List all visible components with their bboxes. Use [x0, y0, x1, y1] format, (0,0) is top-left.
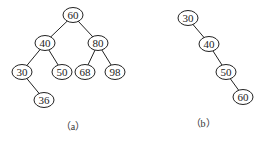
tree-node: 60 — [233, 90, 253, 105]
node-label: 50 — [221, 66, 233, 78]
node-label: 40 — [40, 37, 52, 49]
tree-b: 30405060（b） — [178, 11, 253, 130]
tree-node: 98 — [105, 65, 125, 80]
binary-tree-diagram: 6040803050689836（a）30405060（b） — [0, 0, 267, 141]
node-label: 40 — [204, 38, 216, 50]
node-label: 80 — [93, 37, 105, 49]
node-label: 36 — [39, 94, 51, 106]
tree-edge — [50, 20, 68, 37]
tree-edge — [230, 78, 239, 91]
tree-edge — [26, 78, 39, 94]
node-label: 50 — [57, 66, 69, 78]
tree-node: 50 — [216, 65, 236, 80]
node-label: 60 — [68, 9, 80, 21]
tree-a: 6040803050689836（a） — [12, 8, 125, 133]
tree-caption: （a） — [61, 121, 85, 132]
tree-node: 30 — [12, 65, 32, 80]
tree-node: 30 — [178, 11, 198, 26]
tree-node: 40 — [199, 37, 219, 52]
tree-node: 60 — [63, 8, 83, 23]
tree-node: 50 — [52, 65, 72, 80]
tree-edge — [102, 49, 112, 65]
node-label: 30 — [17, 66, 29, 78]
tree-node: 68 — [75, 65, 95, 80]
tree-edge — [49, 49, 59, 65]
tree-edge — [88, 50, 95, 65]
node-label: 60 — [238, 91, 250, 103]
tree-edge — [78, 21, 94, 38]
tree-node: 80 — [88, 36, 108, 51]
node-label: 30 — [183, 12, 195, 24]
tree-edge — [192, 24, 204, 38]
node-label: 68 — [80, 66, 92, 78]
tree-edge — [26, 49, 40, 66]
tree-node: 40 — [35, 36, 55, 51]
tree-edge — [213, 50, 223, 65]
tree-node: 36 — [34, 93, 54, 108]
node-label: 98 — [110, 66, 122, 78]
tree-caption: （b） — [191, 118, 216, 129]
